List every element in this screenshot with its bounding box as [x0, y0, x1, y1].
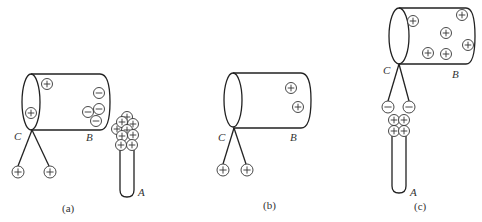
label-c-b: C — [218, 131, 226, 143]
rod-a — [120, 150, 134, 197]
label-c-a: C — [14, 130, 22, 142]
positive-charge-icon — [293, 102, 304, 113]
label-c-c: C — [383, 64, 391, 76]
positive-charge-icon — [12, 166, 24, 178]
positive-charge-icon — [399, 115, 410, 126]
panel-a: C B A (a) — [12, 74, 145, 215]
pendulum-threads-c — [388, 64, 409, 101]
pendulum-threads-a — [18, 130, 49, 166]
panel-c: C B A (c) — [382, 8, 475, 213]
label-b-c: B — [452, 68, 459, 80]
cylinder-end-c-c — [389, 8, 409, 64]
positive-charge-icon — [44, 166, 56, 178]
positive-charge-icon — [457, 10, 468, 21]
caption-c: (c) — [414, 200, 427, 213]
cylinder-b-b — [224, 73, 311, 128]
positive-charge-icon — [441, 49, 452, 60]
cylinder-end-c-b — [224, 73, 242, 127]
caption-b: (b) — [263, 199, 276, 212]
positive-charge-icon — [42, 79, 53, 90]
label-a-c: A — [409, 186, 417, 198]
rod-a-c — [392, 136, 406, 193]
positive-charge-icon — [408, 16, 419, 27]
negative-charge-icon — [83, 107, 94, 118]
negative-charge-icon — [403, 101, 415, 113]
positive-charge-icon — [241, 164, 253, 176]
positive-charge-icon — [128, 130, 139, 141]
cylinder-end-c-a — [22, 74, 40, 130]
caption-a: (a) — [62, 202, 75, 215]
positive-charge-icon — [389, 126, 400, 137]
negative-charge-icon — [91, 116, 102, 127]
negative-charge-icon — [94, 104, 105, 115]
label-b-a: B — [86, 131, 93, 143]
panel-b: C B (b) — [217, 73, 311, 212]
negative-charge-icon — [382, 101, 394, 113]
positive-charge-icon — [26, 108, 37, 119]
positive-charge-icon — [441, 28, 452, 39]
positive-charge-icon — [217, 164, 229, 176]
electroscope-diagram: C B A (a) C B (b) C B — [0, 0, 482, 222]
charges-b — [217, 83, 304, 177]
positive-charge-icon — [286, 83, 297, 94]
positive-charge-icon — [423, 48, 434, 59]
label-a-a: A — [137, 186, 145, 198]
positive-charge-icon — [463, 40, 474, 51]
positive-charge-icon — [127, 140, 138, 151]
pendulum-threads-b — [223, 128, 246, 164]
positive-charge-icon — [399, 126, 410, 137]
negative-charge-icon — [94, 88, 105, 99]
label-b-b: B — [290, 131, 297, 143]
positive-charge-icon — [116, 140, 127, 151]
positive-charge-icon — [389, 115, 400, 126]
